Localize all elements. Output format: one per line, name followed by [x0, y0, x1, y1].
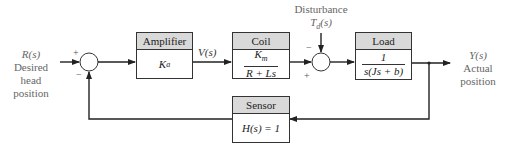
amplifier-title: Amplifier — [137, 33, 192, 50]
sum2-minus-sign: − — [306, 42, 312, 53]
load-title: Load — [356, 33, 411, 50]
output-label: Y(s) Actual position — [452, 49, 504, 88]
sum2-plus-sign: + — [304, 70, 310, 81]
sum1-plus-sign: + — [73, 47, 79, 58]
summing-junction-2 — [312, 53, 330, 71]
block-diagram: R(s) Desired head position + − Amplifier… — [0, 0, 508, 150]
amplifier-tf: Ka — [137, 50, 192, 78]
sum1-minus-sign: − — [76, 69, 82, 80]
input-signal: R(s) — [2, 48, 60, 61]
v-signal-label: V(s) — [198, 46, 216, 59]
input-label: R(s) Desired head position — [2, 48, 60, 100]
disturbance-label: Disturbance Td(s) — [287, 3, 355, 33]
load-tf: 1 s(Js + b) — [356, 50, 411, 79]
sensor-title: Sensor — [233, 97, 289, 114]
output-signal: Y(s) — [452, 49, 504, 62]
amplifier-block: Amplifier Ka — [136, 32, 193, 79]
summing-junction-1 — [80, 53, 98, 71]
sensor-block: Sensor H(s) = 1 — [232, 96, 290, 143]
coil-tf: Km R + Ls — [233, 50, 289, 78]
sensor-tf: H(s) = 1 — [233, 114, 289, 142]
coil-block: Coil Km R + Ls — [232, 32, 290, 79]
load-block: Load 1 s(Js + b) — [355, 32, 412, 80]
